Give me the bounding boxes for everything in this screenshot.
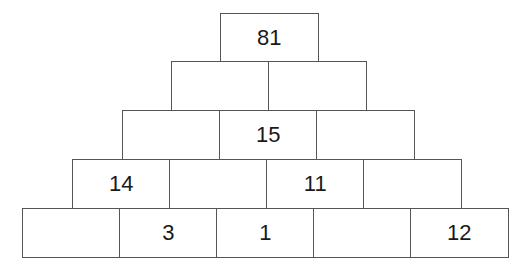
pyramid-cell: 11: [266, 159, 365, 209]
pyramid-row-1: 81: [220, 13, 319, 62]
pyramid-cell: [22, 208, 121, 258]
pyramid-cell: 12: [410, 208, 509, 258]
pyramid-cell: [313, 208, 412, 258]
pyramid-cell: 15: [219, 110, 318, 160]
pyramid-cell: 3: [119, 208, 218, 258]
pyramid-cell: 1: [216, 208, 315, 258]
number-pyramid: 81 15 14 11 3 1 12: [0, 0, 522, 276]
pyramid-cell: [363, 159, 462, 209]
pyramid-cell: 81: [220, 13, 319, 63]
pyramid-cell: [316, 110, 415, 160]
pyramid-row-3: 15: [122, 110, 415, 159]
pyramid-row-4: 14 11: [72, 159, 462, 208]
pyramid-cell: [268, 61, 367, 111]
pyramid-row-5: 3 1 12: [22, 208, 509, 257]
pyramid-cell: [171, 61, 270, 111]
pyramid-cell: [122, 110, 221, 160]
pyramid-cell: 14: [72, 159, 171, 209]
pyramid-cell: [169, 159, 268, 209]
pyramid-row-2: [171, 61, 367, 110]
